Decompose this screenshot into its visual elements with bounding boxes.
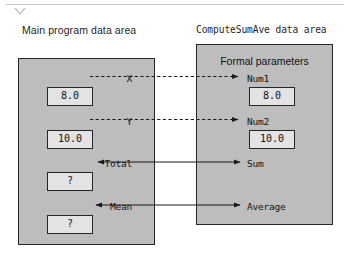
main-program-data-area: X 8.0 Y 10.0 Total ? Mean ?: [18, 58, 155, 245]
collapse-triangle-icon[interactable]: [14, 8, 26, 15]
top-divider-rule: [6, 4, 344, 5]
value-box-x: 8.0: [47, 87, 93, 106]
value-box-num2: 10.0: [249, 130, 295, 149]
variable-label-mean: Mean: [19, 201, 132, 212]
parameter-label-average: Average: [247, 201, 286, 212]
parameter-label-sum: Sum: [247, 158, 264, 169]
main-area-header: Main program data area: [22, 24, 136, 36]
value-box-mean: ?: [47, 215, 93, 234]
variable-label-y: Y: [19, 116, 132, 127]
value-box-num1: 8.0: [249, 87, 295, 106]
value-box-total: ?: [47, 172, 93, 191]
parameter-label-num2: Num2: [247, 116, 269, 127]
computesumave-data-area: Formal parameters Num1 8.0 Num2 10.0 Sum…: [196, 44, 333, 225]
variable-label-x: X: [19, 73, 132, 84]
formal-parameters-title: Formal parameters: [197, 55, 332, 67]
sub-area-header: ComputeSumAve data area: [196, 24, 327, 35]
parameter-label-num1: Num1: [247, 73, 269, 84]
value-box-y: 10.0: [47, 130, 93, 149]
variable-label-total: Total: [19, 158, 132, 169]
